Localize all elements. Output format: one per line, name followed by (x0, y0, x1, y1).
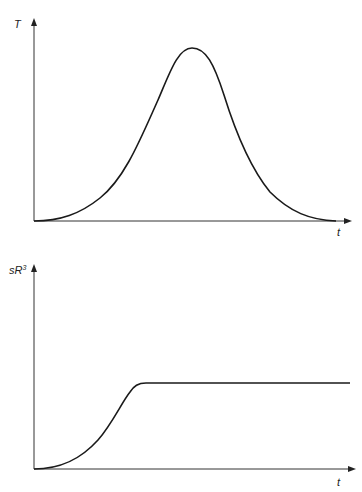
bottom-saturation-curve (34, 383, 350, 469)
top-panel: T t (14, 18, 348, 238)
bottom-panel: sR3 t (9, 264, 352, 488)
top-y-label: T (14, 18, 22, 30)
bottom-x-label: t (337, 476, 341, 488)
top-x-label: t (337, 226, 341, 238)
diagram-canvas: T t sR3 t (0, 0, 362, 492)
top-bell-curve (34, 48, 336, 221)
bottom-y-label: sR3 (9, 264, 26, 276)
